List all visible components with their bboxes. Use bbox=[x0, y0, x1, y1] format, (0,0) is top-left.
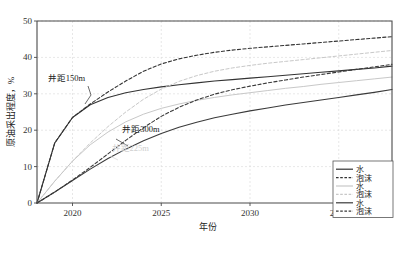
y-tick-label: 50 bbox=[23, 16, 33, 26]
x-axis-title: 年份 bbox=[199, 221, 217, 232]
chart-legend[interactable]: 水泡沫水泡沫水泡沫 bbox=[333, 161, 393, 217]
curve-annotation: 井距300m bbox=[122, 124, 160, 134]
annotations: 井距150m井距300m井距225m bbox=[48, 73, 160, 160]
x-tick-label: 2025 bbox=[152, 208, 171, 218]
y-tick-label: 20 bbox=[23, 125, 33, 135]
tick-labels: 010203040502020202520302035 bbox=[23, 16, 348, 218]
x-tick-label: 2020 bbox=[64, 208, 83, 218]
legend-label-5[interactable]: 泡沫 bbox=[356, 206, 372, 216]
y-tick-label: 30 bbox=[23, 89, 33, 99]
chart-figure: 010203040502020202520302035 井距150m井距300m… bbox=[0, 0, 407, 259]
recovery-degree-line-chart: 010203040502020202520302035 井距150m井距300m… bbox=[0, 0, 407, 259]
x-tick-label: 2030 bbox=[241, 208, 260, 218]
y-axis-title: 原油采出程度，% bbox=[5, 76, 16, 147]
curve-annotation: 井距150m bbox=[48, 73, 86, 83]
y-tick-label: 40 bbox=[23, 52, 33, 62]
curve-annotation: 井距225m bbox=[112, 143, 150, 153]
y-tick-label: 0 bbox=[28, 198, 33, 208]
y-tick-label: 10 bbox=[23, 162, 33, 172]
